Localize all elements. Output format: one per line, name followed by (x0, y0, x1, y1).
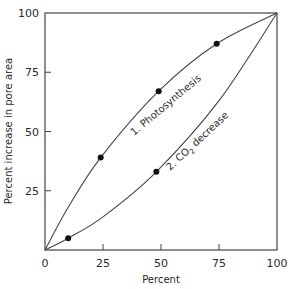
y-tick-label: 75 (25, 66, 39, 79)
series-label-photosynthesis: 1. Photosynthesis (128, 72, 203, 137)
ticks: 0255075100255075100 (18, 7, 288, 270)
x-tick-label: 50 (154, 257, 168, 270)
chart-svg: 0255075100255075100 Percent Percent incr… (0, 0, 293, 289)
data-point-marker (156, 88, 162, 94)
x-tick-label: 100 (267, 257, 288, 270)
x-tick-label: 25 (96, 257, 110, 270)
x-axis-title: Percent (142, 274, 180, 285)
curves (45, 13, 277, 250)
series-label-co2-decrease: 2. CO2 decrease (164, 109, 233, 174)
curve-co2-decrease (45, 13, 277, 250)
y-tick-label: 25 (25, 185, 39, 198)
x-tick-label: 0 (42, 257, 49, 270)
data-point-marker (153, 169, 159, 175)
plot-frame (45, 13, 277, 250)
y-tick-label: 50 (25, 126, 39, 139)
data-point-marker (98, 155, 104, 161)
pore-area-chart: 0255075100255075100 Percent Percent incr… (0, 0, 293, 289)
axes (45, 13, 277, 250)
data-point-marker (65, 235, 71, 241)
y-axis-title: Percent increase in pore area (3, 58, 14, 204)
data-point-marker (214, 41, 220, 47)
y-tick-label: 100 (18, 7, 39, 20)
curve-photosynthesis (45, 13, 277, 250)
x-tick-label: 75 (212, 257, 226, 270)
